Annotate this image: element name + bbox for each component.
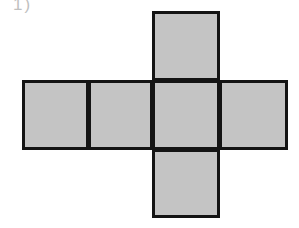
net-face-left (22, 80, 89, 150)
corner-label: 1) (13, 0, 32, 13)
net-face-center (152, 80, 220, 150)
net-face-bottom (152, 149, 220, 218)
net-face-right (219, 80, 288, 150)
cube-net-figure: 1) (0, 0, 299, 228)
net-face-top (152, 11, 220, 81)
net-face-mid-left (88, 80, 153, 150)
